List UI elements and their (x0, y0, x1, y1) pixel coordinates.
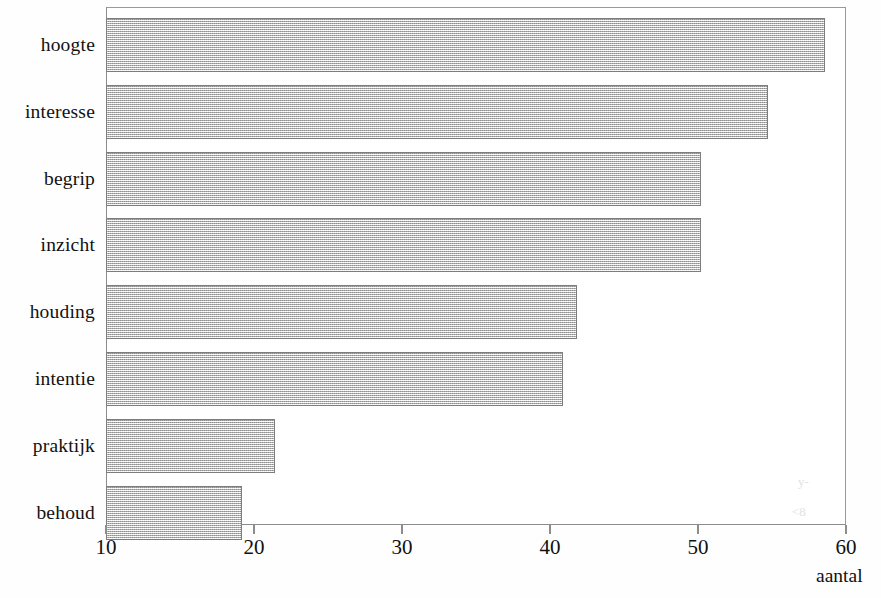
category-label-behoud: behoud (0, 503, 95, 523)
bars-layer (106, 7, 846, 525)
bar-intentie (106, 352, 563, 406)
category-label-interesse: interesse (0, 102, 95, 122)
bar-houding (106, 285, 577, 339)
bar-begrip (106, 152, 701, 206)
bar-praktijk (106, 419, 275, 473)
x-tick-label-40: 40 (520, 537, 580, 558)
x-tick-label-30: 30 (372, 537, 432, 558)
x-tick-20 (253, 525, 254, 534)
category-label-intentie: intentie (0, 369, 95, 389)
x-tick-30 (401, 525, 402, 534)
category-label-praktijk: praktijk (0, 436, 95, 456)
bar-chart: hoogteinteressebegripinzichthoudinginten… (0, 0, 881, 598)
x-tick-10 (105, 525, 106, 534)
x-tick-60 (845, 525, 846, 534)
bar-inzicht (106, 218, 701, 272)
category-label-hoogte: hoogte (0, 35, 95, 55)
category-label-houding: houding (0, 302, 95, 322)
x-tick-50 (697, 525, 698, 534)
bar-hoogte (106, 18, 825, 72)
x-tick-label-60: 60 (816, 537, 876, 558)
x-tick-label-20: 20 (224, 537, 284, 558)
x-tick-label-50: 50 (668, 537, 728, 558)
scan-artifact-2: <8 (792, 504, 806, 520)
bar-behoud (106, 486, 242, 540)
x-axis-title: aantal (816, 566, 863, 586)
scan-artifact-1: y- (798, 474, 809, 490)
x-tick-40 (549, 525, 550, 534)
x-tick-label-10: 10 (76, 537, 136, 558)
category-label-begrip: begrip (0, 169, 95, 189)
bar-interesse (106, 85, 768, 139)
category-label-inzicht: inzicht (0, 235, 95, 255)
